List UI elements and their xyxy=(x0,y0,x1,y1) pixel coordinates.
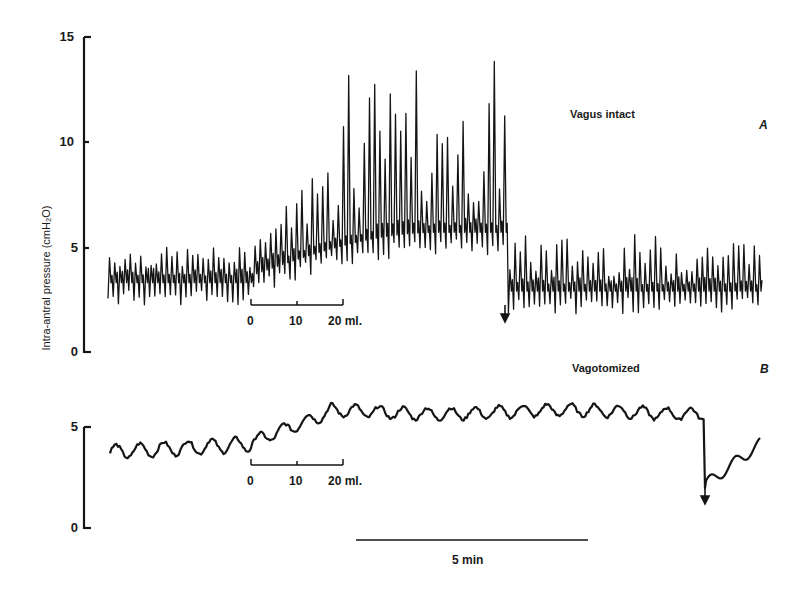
panel-a-tick-0: 0 xyxy=(58,344,78,359)
panel-a-y-axis xyxy=(84,37,91,353)
panel-b-tick-0: 0 xyxy=(58,520,78,535)
panel-b-y-axis xyxy=(84,427,91,529)
panel-b-tick-5: 5 xyxy=(58,419,78,434)
panel-a-pressure-trace xyxy=(108,61,762,313)
panel-b-title: Vagotomized xyxy=(572,362,640,374)
panel-a-infusion-0: 0 xyxy=(247,314,254,328)
panel-b-infusion-0: 0 xyxy=(247,474,254,488)
figure-canvas xyxy=(0,0,799,596)
panel-a-infusion-20: 20 ml. xyxy=(328,314,362,328)
panel-a-tick-15: 15 xyxy=(54,29,74,44)
panel-b-release-arrow-icon xyxy=(701,488,709,504)
panel-b-infusion-20: 20 ml. xyxy=(328,474,362,488)
panel-a-letter: A xyxy=(759,118,768,132)
panel-b-letter: B xyxy=(760,362,769,376)
panel-a-infusion-10: 10 xyxy=(289,314,302,328)
panel-b-pressure-trace xyxy=(110,403,760,488)
panel-b-infusion-10: 10 xyxy=(289,474,302,488)
panel-a-tick-10: 10 xyxy=(54,134,74,149)
panel-a-infusion-scale xyxy=(251,299,343,305)
y-axis-label: Intra-antral pressure (cmH₂O) xyxy=(40,198,52,358)
panel-a-title: Vagus intact xyxy=(570,108,635,120)
panel-b-infusion-scale xyxy=(251,459,343,465)
panel-a-tick-5: 5 xyxy=(58,240,78,255)
time-scale-label: 5 min xyxy=(452,553,483,567)
